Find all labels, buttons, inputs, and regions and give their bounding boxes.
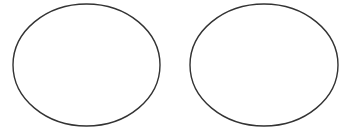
right-ellipse xyxy=(190,4,338,126)
diagram-canvas xyxy=(0,0,348,134)
left-ellipse xyxy=(13,4,160,126)
diagram-svg xyxy=(0,0,348,134)
